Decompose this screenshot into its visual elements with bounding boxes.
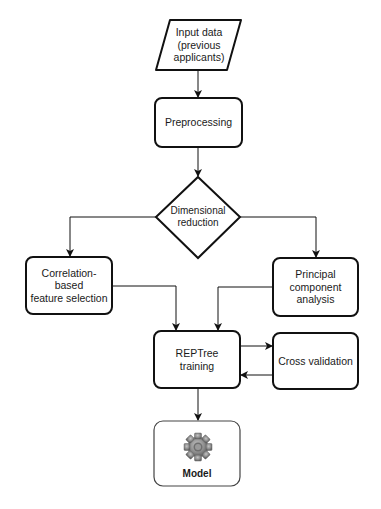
pca-label: Principal component analysis: [273, 258, 358, 316]
model-label: Model: [154, 467, 240, 481]
reptree-label-line-1: REPTree: [176, 347, 219, 360]
reptree-label-line-2: training: [176, 360, 219, 373]
edge-cfs-to-reptree: [112, 286, 176, 330]
reptree-label: REPTree training: [154, 331, 240, 388]
edge-dimred-to-cfs: [70, 217, 156, 256]
cfs-label-line-1: Correlation-: [30, 267, 107, 280]
gear-icon: [184, 433, 212, 461]
preprocessing-label: Preprocessing: [155, 98, 242, 147]
dimred-label: Dimensional reduction: [156, 203, 240, 231]
input-label-line-1: Input data: [174, 26, 225, 39]
cv-label: Cross validation: [273, 333, 358, 389]
pca-label-line-2: component: [290, 281, 342, 294]
input-label: Input data (previous applicants): [160, 20, 238, 70]
input-label-line-2: (previous: [174, 39, 225, 52]
flowchart-diagram: [0, 0, 381, 509]
cfs-label-line-2: based: [30, 279, 107, 292]
dimred-label-line-2: reduction: [170, 217, 225, 230]
dimred-label-line-1: Dimensional: [170, 205, 225, 218]
pca-label-line-3: analysis: [290, 293, 342, 306]
edge-pca-to-reptree: [218, 287, 273, 330]
cfs-label-line-3: feature selection: [30, 292, 107, 305]
cfs-label: Correlation- based feature selection: [26, 257, 112, 314]
pca-label-line-1: Principal: [290, 268, 342, 281]
edge-dimred-to-pca: [240, 217, 316, 257]
input-label-line-3: applicants): [174, 51, 225, 64]
